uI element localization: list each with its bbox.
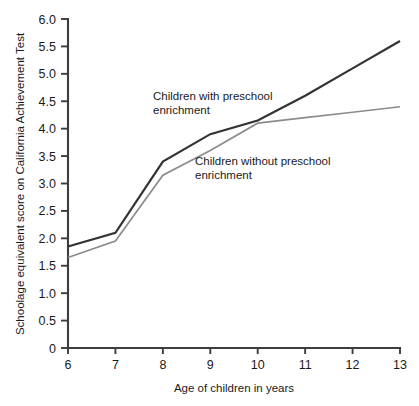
series-line-children-with-preschool-enrichment bbox=[68, 41, 400, 247]
x-tick-label: 10 bbox=[251, 358, 265, 372]
x-tick-label: 11 bbox=[299, 358, 312, 372]
y-tick-label: 5.0 bbox=[39, 67, 56, 81]
y-tick-label: 3.0 bbox=[39, 177, 56, 191]
y-tick-labels: 00.51.01.52.02.53.03.54.04.55.05.56.0 bbox=[39, 13, 56, 356]
x-tick-label: 8 bbox=[159, 358, 166, 372]
y-tick-label: 0.5 bbox=[39, 314, 56, 328]
y-tick-label: 4.0 bbox=[39, 122, 56, 136]
x-tick-label: 9 bbox=[207, 358, 214, 372]
y-axis-title: Schoolage equivalent score on California… bbox=[14, 32, 26, 335]
data-series-group bbox=[68, 41, 400, 258]
y-tick-label: 1.0 bbox=[39, 287, 56, 301]
y-tick-label: 2.5 bbox=[39, 204, 56, 218]
chart-container: 00.51.01.52.02.53.03.54.04.55.05.56.0 67… bbox=[0, 0, 419, 406]
x-tick-label: 13 bbox=[393, 358, 407, 372]
annotation-line: Children with preschool bbox=[153, 90, 273, 102]
x-tick-labels: 678910111213 bbox=[65, 358, 407, 372]
annotation-line: enrichment bbox=[195, 169, 253, 181]
annotation-line: Children without preschool bbox=[195, 155, 331, 167]
x-tick-label: 6 bbox=[65, 358, 72, 372]
x-axis-title: Age of children in years bbox=[174, 382, 294, 394]
y-tick-label: 4.5 bbox=[39, 95, 56, 109]
y-tick-label: 3.5 bbox=[39, 150, 56, 164]
annotation-without-enrichment: Children without preschoolenrichment bbox=[195, 155, 331, 181]
y-tick-label: 6.0 bbox=[39, 13, 56, 27]
y-tick-label: 5.5 bbox=[39, 40, 56, 54]
x-axis: 678910111213 bbox=[65, 348, 407, 372]
annotation-line: enrichment bbox=[153, 104, 211, 116]
x-tick-label: 12 bbox=[346, 358, 360, 372]
series-line-children-without-preschool-enrichment bbox=[68, 107, 400, 258]
line-chart: 00.51.01.52.02.53.03.54.04.55.05.56.0 67… bbox=[0, 0, 419, 406]
annotation-with-enrichment: Children with preschoolenrichment bbox=[153, 90, 273, 116]
x-tick-label: 7 bbox=[112, 358, 119, 372]
y-tick-label: 0 bbox=[49, 342, 56, 356]
y-tick-label: 2.0 bbox=[39, 232, 56, 246]
y-axis: 00.51.01.52.02.53.03.54.04.55.05.56.0 bbox=[39, 13, 68, 356]
y-tick-label: 1.5 bbox=[39, 259, 56, 273]
